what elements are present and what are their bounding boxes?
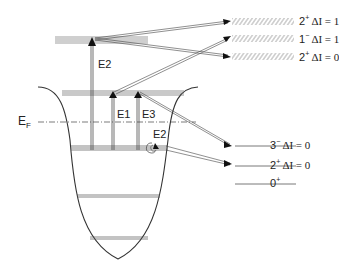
top-level-band — [55, 37, 148, 43]
state-parity: + — [305, 14, 309, 21]
excitation-E2-arrow — [91, 45, 93, 150]
fermi-level-label: EF — [18, 115, 31, 127]
transition-label-e2-top: E2 — [98, 59, 111, 70]
state-label-2plus-dI1: 2+ ΔI = 1 — [299, 16, 339, 27]
state-parity: − — [276, 138, 280, 145]
excitation-E3-arrow — [137, 98, 139, 150]
fermi-label-sub: F — [26, 121, 31, 130]
fermi-label-main: E — [18, 114, 26, 128]
label-2plus-low: 2+ ΔI = 0 — [270, 160, 310, 171]
state-parity: − — [305, 32, 309, 39]
deep-level-2 — [90, 237, 148, 239]
upper-band-transitions — [114, 38, 230, 146]
state-delta: ΔI = 0 — [311, 51, 339, 63]
transition-label-e3: E3 — [142, 109, 155, 120]
deep-level-1 — [77, 195, 160, 197]
state-delta: ΔI = 1 — [311, 33, 339, 45]
excitation-E1-arrow — [112, 98, 114, 150]
state-parity: + — [305, 50, 309, 57]
upper-level-band — [62, 91, 184, 95]
label-0plus: 0+ — [270, 178, 280, 189]
state-parity: + — [276, 176, 280, 183]
hatched-state-1minus-dI1 — [232, 35, 294, 42]
hatched-state-2plus-dI0 — [232, 53, 294, 60]
state-label-1minus-dI1: 1− ΔI = 1 — [299, 34, 339, 45]
label-3minus: 3− ΔI = 0 — [270, 140, 310, 151]
state-label-2plus-dI0-top: 2+ ΔI = 0 — [299, 52, 339, 63]
state-delta: ΔI = 0 — [282, 139, 310, 151]
hatched-state-2plus-dI1 — [232, 18, 294, 25]
state-delta: ΔI = 0 — [282, 159, 310, 171]
transition-label-e1: E1 — [117, 109, 130, 120]
state-parity: + — [276, 158, 280, 165]
lower-band-transitions — [166, 146, 230, 165]
state-delta: ΔI = 1 — [311, 15, 339, 27]
transition-label-e2-low: E2 — [153, 129, 166, 140]
